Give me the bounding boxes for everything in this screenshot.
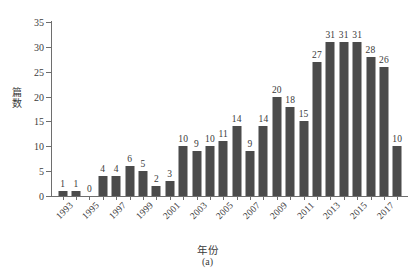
x-tick-2009 <box>277 196 278 200</box>
bar-1994 <box>72 191 81 196</box>
x-tick-2017 <box>384 196 385 200</box>
x-tick-2011 <box>304 196 305 200</box>
x-tick-1997 <box>116 196 117 200</box>
bar-1993 <box>58 191 67 196</box>
bar-2007 <box>246 151 255 196</box>
bar-value-2006: 14 <box>232 114 242 124</box>
bar-1996 <box>98 176 107 196</box>
plot-area <box>52 22 408 196</box>
bar-1997 <box>112 176 121 196</box>
bar-value-2016: 28 <box>366 45 376 55</box>
bar-value-1998: 6 <box>127 154 132 164</box>
bar-2017 <box>379 67 388 196</box>
x-tick-label-2017: 2017 <box>375 200 396 221</box>
bar-value-1997: 4 <box>114 164 119 174</box>
x-tick-1996 <box>103 196 104 200</box>
bar-2015 <box>353 42 362 196</box>
y-tick-label-0: 0 <box>0 191 44 202</box>
x-tick-2016 <box>371 196 372 200</box>
bar-2016 <box>366 57 375 196</box>
bar-value-2002: 10 <box>178 134 188 144</box>
x-tick-2018 <box>397 196 398 200</box>
bar-2011 <box>299 121 308 196</box>
x-tick-2002 <box>183 196 184 200</box>
bar-2000 <box>152 186 161 196</box>
bar-2018 <box>393 146 402 196</box>
bar-value-2012: 27 <box>312 50 322 60</box>
x-tick-label-1999: 1999 <box>134 200 155 221</box>
x-tick-label-1993: 1993 <box>54 200 75 221</box>
bar-2009 <box>272 97 281 196</box>
bar-value-1995: 0 <box>87 184 92 194</box>
x-tick-label-2015: 2015 <box>348 200 369 221</box>
bar-chart-figure: 05101520253035 1104465231091011149142018… <box>0 0 415 273</box>
x-tick-2014 <box>344 196 345 200</box>
bar-value-1993: 1 <box>60 179 65 189</box>
x-tick-label-2011: 2011 <box>295 200 316 221</box>
x-tick-label-1995: 1995 <box>80 200 101 221</box>
y-tick-label-35: 35 <box>0 17 44 28</box>
x-tick-2015 <box>357 196 358 200</box>
x-tick-label-2013: 2013 <box>321 200 342 221</box>
bar-2013 <box>326 42 335 196</box>
bar-2006 <box>232 126 241 196</box>
x-tick-2001 <box>170 196 171 200</box>
bar-value-2015: 31 <box>352 30 362 40</box>
x-tick-2000 <box>156 196 157 200</box>
bar-1999 <box>139 171 148 196</box>
x-tick-2006 <box>237 196 238 200</box>
x-tick-1999 <box>143 196 144 200</box>
bar-2010 <box>286 107 295 196</box>
x-tick-2012 <box>317 196 318 200</box>
x-axis-line <box>51 196 408 197</box>
x-tick-label-2005: 2005 <box>214 200 235 221</box>
bar-value-2001: 3 <box>167 169 172 179</box>
x-tick-1995 <box>89 196 90 200</box>
bar-2001 <box>165 181 174 196</box>
bar-value-2008: 14 <box>259 114 269 124</box>
x-tick-2008 <box>263 196 264 200</box>
bar-2003 <box>192 151 201 196</box>
x-tick-label-2009: 2009 <box>268 200 289 221</box>
bar-value-2004: 10 <box>205 134 215 144</box>
bar-value-2013: 31 <box>325 30 335 40</box>
y-tick-label-15: 15 <box>0 116 44 127</box>
figure-caption: (a) <box>0 256 415 267</box>
x-tick-label-2003: 2003 <box>188 200 209 221</box>
bar-value-2000: 2 <box>154 174 159 184</box>
bar-value-1996: 4 <box>100 164 105 174</box>
y-tick-label-5: 5 <box>0 166 44 177</box>
bar-2012 <box>312 62 321 196</box>
bar-value-2005: 11 <box>219 129 229 139</box>
bar-2005 <box>219 141 228 196</box>
x-tick-2013 <box>330 196 331 200</box>
bar-2014 <box>339 42 348 196</box>
x-axis-title: 年份 <box>0 242 415 257</box>
x-tick-2007 <box>250 196 251 200</box>
x-tick-2004 <box>210 196 211 200</box>
y-tick-label-10: 10 <box>0 141 44 152</box>
bar-value-2017: 26 <box>379 55 389 65</box>
x-tick-1993 <box>63 196 64 200</box>
bar-value-2010: 18 <box>285 95 295 105</box>
bar-value-1999: 5 <box>141 159 146 169</box>
x-tick-label-1997: 1997 <box>107 200 128 221</box>
x-tick-label-2001: 2001 <box>161 200 182 221</box>
x-tick-2003 <box>197 196 198 200</box>
bar-value-2007: 9 <box>248 139 253 149</box>
bar-value-2009: 20 <box>272 85 282 95</box>
bar-2004 <box>205 146 214 196</box>
bar-1998 <box>125 166 134 196</box>
bar-2002 <box>179 146 188 196</box>
y-tick-label-25: 25 <box>0 66 44 77</box>
bar-2008 <box>259 126 268 196</box>
bar-value-2011: 15 <box>299 109 309 119</box>
y-axis-title: 篇数 <box>8 87 23 109</box>
x-tick-1994 <box>76 196 77 200</box>
bar-value-2003: 9 <box>194 139 199 149</box>
x-tick-2010 <box>290 196 291 200</box>
x-tick-2005 <box>223 196 224 200</box>
y-tick-0 <box>46 196 52 197</box>
bar-value-2014: 31 <box>339 30 349 40</box>
bar-value-1994: 1 <box>74 179 79 189</box>
